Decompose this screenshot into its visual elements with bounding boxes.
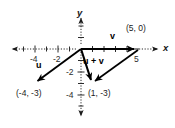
vector-u-plus-v-label: u + v — [83, 57, 104, 66]
y-axis-label: y — [77, 8, 82, 18]
vector-v-label: v — [110, 32, 115, 41]
point-label-1-minus3: (1, -3) — [88, 89, 111, 98]
x-tick-label-minus2: -2 — [53, 55, 61, 64]
x-axis-label: x — [163, 43, 168, 53]
point-label-minus4-minus3: (-4, -3) — [16, 89, 42, 98]
y-axis — [78, 18, 85, 116]
vector-u-label: u — [36, 61, 42, 70]
x-tick-label-5: 5 — [134, 55, 139, 64]
y-tick-label-minus2: -2 — [66, 68, 74, 77]
vector-addition-figure: x y -4 -2 5 -2 -4 u v u + v (5, 0) (-4, … — [0, 0, 175, 128]
y-tick-label-minus4: -4 — [66, 91, 74, 100]
point-label-5-0: (5, 0) — [126, 24, 146, 33]
